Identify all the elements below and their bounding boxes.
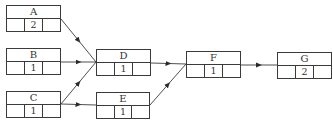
activity-cell-right bbox=[133, 63, 150, 76]
activity-node-g: G 2 bbox=[277, 52, 332, 79]
edge-a-d bbox=[61, 19, 96, 62]
activity-cells: 1 bbox=[7, 105, 60, 118]
activity-name: C bbox=[7, 92, 60, 105]
activity-cell-left bbox=[7, 62, 24, 75]
activity-cell-right bbox=[223, 65, 240, 78]
activity-node-d: D 1 bbox=[96, 49, 151, 76]
activity-cell-right bbox=[43, 19, 60, 32]
activity-duration: 1 bbox=[24, 62, 43, 75]
activity-name: A bbox=[7, 6, 60, 19]
activity-cells: 1 bbox=[97, 63, 150, 76]
activity-cell-right bbox=[43, 105, 60, 118]
activity-name: G bbox=[278, 53, 331, 66]
activity-cells: 1 bbox=[7, 62, 60, 75]
activity-cells: 1 bbox=[187, 65, 240, 78]
activity-node-b: B 1 bbox=[6, 48, 61, 75]
edge-d-f bbox=[151, 63, 186, 64]
activity-duration: 1 bbox=[114, 63, 133, 76]
activity-duration: 1 bbox=[24, 105, 43, 118]
activity-cells: 2 bbox=[278, 66, 331, 79]
edge-c-d bbox=[61, 62, 96, 104]
activity-name: F bbox=[187, 52, 240, 65]
activity-duration: 2 bbox=[295, 66, 314, 79]
activity-cell-left bbox=[7, 19, 24, 32]
activity-node-a: A 2 bbox=[6, 5, 61, 32]
activity-name: B bbox=[7, 49, 60, 62]
activity-name: E bbox=[97, 93, 149, 106]
activity-node-f: F 1 bbox=[186, 51, 241, 78]
activity-node-e: E 1 bbox=[96, 92, 150, 119]
activity-cell-left bbox=[278, 66, 295, 79]
activity-duration: 1 bbox=[114, 106, 133, 119]
activity-name: D bbox=[97, 50, 150, 63]
activity-cell-right bbox=[132, 106, 149, 119]
activity-cell-left bbox=[97, 106, 114, 119]
activity-cell-left bbox=[97, 63, 114, 76]
activity-cell-right bbox=[43, 62, 60, 75]
edge-c-e bbox=[61, 104, 96, 105]
activity-cell-left bbox=[7, 105, 24, 118]
activity-node-c: C 1 bbox=[6, 91, 61, 118]
edge-e-f bbox=[150, 64, 186, 105]
activity-duration: 2 bbox=[24, 19, 43, 32]
activity-duration: 1 bbox=[204, 65, 223, 78]
activity-cells: 2 bbox=[7, 19, 60, 32]
activity-cells: 1 bbox=[97, 106, 149, 119]
activity-cell-right bbox=[314, 66, 331, 79]
activity-cell-left bbox=[187, 65, 204, 78]
